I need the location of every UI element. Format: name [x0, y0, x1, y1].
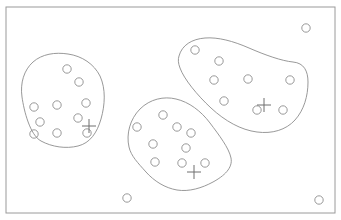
canvas-background	[0, 0, 341, 220]
cluster-scatter-diagram	[0, 0, 341, 220]
diagram-canvas	[0, 0, 341, 220]
